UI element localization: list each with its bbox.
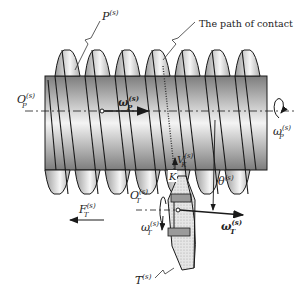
worm-gear-diagram: P(s) The path of contact O(s)P ω(s)P ω(s…	[0, 0, 304, 304]
worm	[45, 50, 267, 205]
gear-tooth	[168, 176, 195, 270]
label-gear-omega-vector: ω(s)T	[221, 218, 242, 236]
gear-surface-leader	[155, 268, 174, 278]
gear-origin-point	[176, 208, 180, 212]
label-worm-origin: O(s)P	[17, 92, 35, 110]
worm-thread-crests-top	[55, 50, 260, 76]
label-path-of-contact: The path of contact	[199, 18, 293, 29]
label-worm-omega-rotation: ω(s)P	[273, 124, 291, 141]
worm-rotation-icon	[274, 99, 284, 119]
worm-origin-point	[100, 109, 104, 113]
label-gear-omega-rotation: ω(s)T	[141, 220, 159, 237]
label-worm-surface: P(s)	[101, 9, 119, 23]
label-gear-surface: T(s)	[135, 273, 152, 287]
diagram-svg: P(s) The path of contact O(s)P ω(s)P ω(s…	[0, 0, 304, 304]
label-contact-point: K	[168, 171, 177, 182]
label-gear-origin: O(s)T	[130, 188, 148, 205]
label-force: F(s)T	[78, 202, 96, 219]
